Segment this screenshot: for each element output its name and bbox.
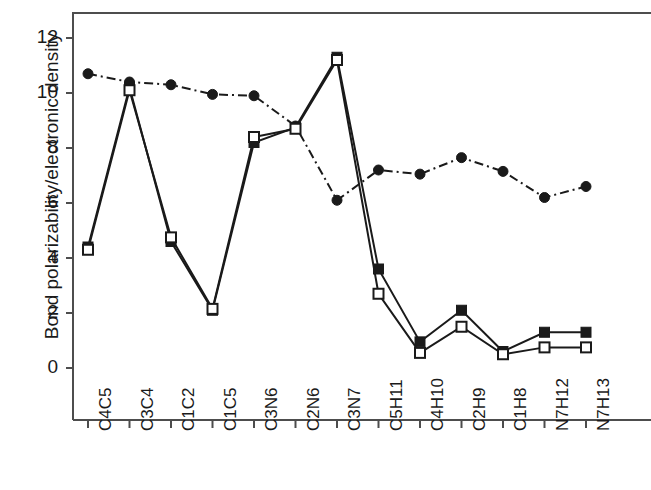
data-point-marker (415, 348, 425, 358)
data-point-marker (208, 89, 218, 99)
data-point-marker (540, 193, 550, 203)
data-point-marker (208, 304, 218, 314)
data-point-marker (125, 85, 135, 95)
data-point-marker (249, 91, 259, 101)
x-tick-label: N7H13 (594, 378, 614, 431)
open-square-series (83, 55, 591, 359)
data-point-marker (581, 182, 591, 192)
data-point-marker (291, 124, 301, 134)
y-tick-label: 0 (18, 356, 58, 378)
x-tick-label: C4C5 (96, 388, 116, 431)
x-tick-label: C1C2 (179, 388, 199, 431)
y-tick-label: 4 (18, 246, 58, 268)
y-tick-label: 6 (18, 191, 58, 213)
x-tick-label: C4H10 (428, 378, 448, 431)
circle-dashdot-series (83, 69, 591, 206)
data-point-marker (498, 166, 508, 176)
data-point-marker (457, 305, 467, 315)
data-point-marker (83, 69, 93, 79)
chart-figure: Bond polarizability/electronic density 0… (0, 0, 651, 490)
data-point-marker (83, 245, 93, 255)
y-tick-label: 8 (18, 136, 58, 158)
x-tick-label: C3N6 (262, 388, 282, 431)
data-point-marker (540, 342, 550, 352)
axis-frame (73, 13, 651, 420)
x-tick-label: C3N7 (345, 388, 365, 431)
data-point-marker (498, 349, 508, 359)
data-point-marker (374, 165, 384, 175)
data-point-marker (581, 327, 591, 337)
x-tick-label: N7H12 (553, 378, 573, 431)
x-tick-label: C5H11 (387, 379, 407, 431)
data-point-marker (581, 342, 591, 352)
x-tick-label: C1C5 (221, 388, 241, 431)
data-point-marker (249, 132, 259, 142)
data-point-marker (166, 232, 176, 242)
x-tick-label: C1H8 (511, 388, 531, 431)
data-point-marker (457, 153, 467, 163)
y-tick-label: 12 (18, 26, 58, 48)
data-point-marker (457, 322, 467, 332)
data-point-marker (332, 195, 342, 205)
data-point-marker (374, 289, 384, 299)
y-tick-label: 2 (18, 301, 58, 323)
data-point-marker (415, 169, 425, 179)
x-tick-label: C2H9 (470, 388, 490, 431)
y-axis-ticks (66, 38, 73, 368)
x-tick-label: C3C4 (138, 388, 158, 431)
x-tick-label: C2N6 (304, 388, 324, 431)
y-tick-label: 10 (18, 81, 58, 103)
data-point-marker (540, 327, 550, 337)
data-point-marker (415, 337, 425, 347)
data-point-marker (332, 55, 342, 65)
data-point-marker (166, 80, 176, 90)
